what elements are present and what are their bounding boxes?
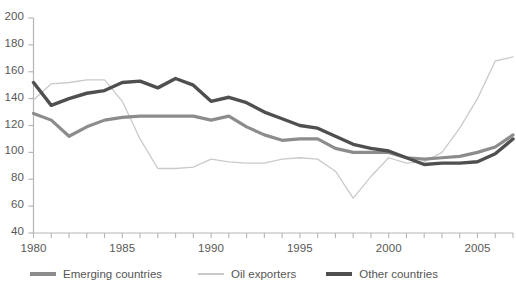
legend-swatch-icon: [326, 272, 352, 275]
legend-label: Emerging countries: [63, 268, 162, 280]
x-tick-label: 1990: [191, 242, 231, 254]
x-tick-label: 1985: [102, 242, 142, 254]
y-tick-label: 180: [0, 37, 24, 49]
chart-container: 406080100120140160180200 198019851990199…: [0, 0, 516, 290]
legend-item-emerging-countries: Emerging countries: [30, 268, 162, 280]
y-tick-label: 60: [0, 198, 24, 210]
y-tick-label: 80: [0, 171, 24, 183]
x-tick-label: 1995: [280, 242, 320, 254]
x-tick-label: 1980: [14, 242, 54, 254]
x-tick-label: 2005: [457, 242, 497, 254]
x-tick-label: 2000: [369, 242, 409, 254]
legend-swatch-icon: [30, 272, 56, 275]
line-chart-plot: [0, 0, 516, 290]
y-tick-label: 100: [0, 144, 24, 156]
legend-item-other-countries: Other countries: [326, 268, 438, 280]
series-line-oil-exporters: [34, 57, 514, 198]
legend-item-oil-exporters: Oil exporters: [198, 268, 296, 280]
legend-label: Other countries: [359, 268, 438, 280]
y-tick-label: 200: [0, 10, 24, 22]
legend-swatch-icon: [198, 273, 224, 274]
y-tick-label: 40: [0, 225, 24, 237]
legend-label: Oil exporters: [231, 268, 296, 280]
y-tick-label: 160: [0, 64, 24, 76]
chart-legend: Emerging countriesOil exportersOther cou…: [30, 268, 438, 280]
y-tick-label: 140: [0, 91, 24, 103]
y-tick-label: 120: [0, 118, 24, 130]
